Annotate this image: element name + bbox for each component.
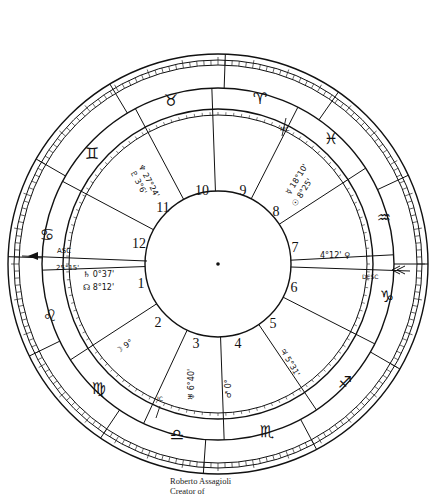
house-number-2: 2 [155, 315, 162, 330]
placement-moon: ☽ 9° [114, 337, 135, 355]
caption-subtitle: Creator of [170, 486, 231, 496]
sign-aquarius-glyph: ♒ [377, 208, 391, 227]
asc-value: 25°15' [56, 264, 79, 272]
sign-aries-glyph: ♈ [253, 89, 267, 108]
caption-name: Roberto Assagioli [170, 476, 231, 486]
asc-arrow-icon [28, 252, 38, 260]
house-number-10: 10 [195, 183, 209, 198]
ic-label: IC [157, 395, 163, 402]
house-number-7: 7 [292, 240, 299, 255]
placement-venus: 4°12' ♀ [320, 251, 350, 260]
house-number-9: 9 [240, 183, 247, 198]
house-number-4: 4 [235, 336, 242, 351]
sign-cancer-glyph: ♋ [40, 225, 54, 244]
natal-chart-wheel: ♈ ♉ ♊ ♋ ♌ ♍ ♎ ♏ ♐ ♑ ♒ ♓ 1 2 3 4 5 6 7 8 … [0, 0, 435, 501]
sign-taurus-glyph: ♉ [164, 91, 178, 110]
placement-uranus: ♅ 6°40' [187, 369, 196, 400]
asc-label: ASC [57, 247, 71, 255]
house-number-12: 12 [132, 236, 146, 251]
horizon-line [22, 256, 147, 261]
ic-arrow-icon [156, 406, 160, 418]
sign-gemini-glyph: ♊ [85, 144, 99, 163]
house-number-11: 11 [156, 200, 169, 215]
house-number-1: 1 [138, 276, 145, 291]
house-number-6: 6 [291, 280, 298, 295]
placement-node: ☊ 8°12' [83, 283, 114, 292]
chart-caption: Roberto Assagioli Creator of [170, 476, 231, 496]
sign-libra-glyph: ♎ [170, 425, 184, 444]
sign-virgo-glyph: ♍ [92, 379, 106, 398]
sign-pisces-glyph: ♓ [324, 129, 338, 148]
placement-mars: ♂ 0° [224, 379, 233, 398]
sign-capricorn-glyph: ♑ [380, 287, 394, 306]
mc-label: MC [280, 125, 289, 132]
house-number-8: 8 [273, 204, 280, 219]
center-dot [216, 262, 220, 266]
placement-saturn: ♄ 0°37' [83, 270, 114, 279]
desc-label: DESC [362, 273, 378, 280]
sign-leo-glyph: ♌ [43, 306, 57, 325]
placement-jupiter: ♃ 5°31' [278, 347, 301, 379]
house-number-3: 3 [193, 336, 200, 351]
house-number-5: 5 [270, 316, 277, 331]
sign-scorpio-glyph: ♏ [260, 422, 274, 441]
sign-sagittarius-glyph: ♐ [338, 373, 352, 392]
